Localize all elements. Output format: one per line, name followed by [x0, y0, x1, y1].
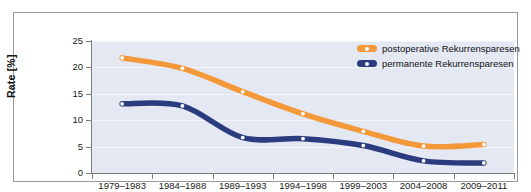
- figure-canvas: 0510152025 1979–19831984–19881989–199319…: [0, 0, 531, 192]
- legend-label-permanente: permanente Rekurrensparesen: [382, 58, 514, 69]
- data-point-marker: [482, 161, 486, 165]
- data-point-marker: [181, 104, 185, 108]
- data-point-marker: [422, 144, 426, 148]
- data-point-marker: [120, 56, 124, 60]
- data-point-marker: [301, 137, 305, 141]
- data-series-layer: [14, 13, 531, 192]
- data-point-marker: [301, 112, 305, 116]
- legend-label-postoperative: postoperative Rekurrensparesen: [382, 43, 520, 54]
- data-point-marker: [482, 143, 486, 147]
- data-point-marker: [241, 136, 245, 140]
- chart-legend: postoperative Rekurrensparesen permanent…: [357, 42, 517, 72]
- legend-item-postoperative: postoperative Rekurrensparesen: [357, 42, 517, 55]
- legend-item-permanente: permanente Rekurrensparesen: [357, 57, 517, 70]
- data-point-marker: [361, 144, 365, 148]
- data-point-marker: [361, 129, 365, 133]
- chart-frame: 0510152025 1979–19831984–19881989–199319…: [13, 12, 518, 182]
- legend-swatch-orange-icon: [357, 45, 377, 52]
- data-point-marker: [181, 67, 185, 71]
- data-point-marker: [422, 159, 426, 163]
- data-point-marker: [241, 90, 245, 94]
- data-point-marker: [120, 102, 124, 106]
- legend-swatch-blue-icon: [357, 60, 377, 67]
